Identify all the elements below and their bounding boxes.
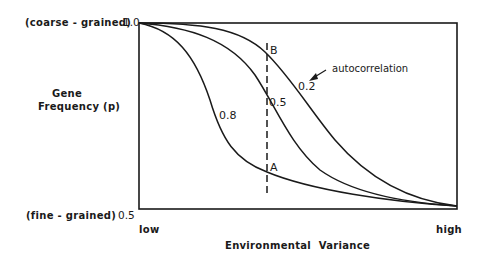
curve-0.5-label: 0.5 (269, 96, 287, 109)
x-axis-label: Environmental Variance (225, 240, 370, 251)
x-tick-high: high (436, 224, 462, 235)
y-tick-1.0: 1.0 (123, 16, 140, 28)
curve-0.2-label: 0.2 (298, 80, 316, 93)
ylabel-line2: Frequency (p) (38, 101, 120, 112)
curve-0.8-label: 0.8 (219, 109, 237, 122)
curve-0.2 (139, 23, 457, 206)
fine-grained-label: (fine - grained) (26, 210, 116, 221)
point-b-label: B (270, 44, 278, 57)
axes-frame (139, 23, 457, 209)
point-a-label: A (270, 161, 278, 174)
coarse-grained-label: (coarse - grained) (25, 17, 131, 28)
curve-0.8 (139, 23, 457, 206)
ylabel-line1: Gene (52, 88, 82, 99)
x-tick-low: low (139, 224, 159, 235)
curve-0.5 (139, 23, 457, 206)
y-tick-0.5: 0.5 (118, 209, 135, 221)
autocorrelation-label: autocorrelation (332, 63, 408, 74)
